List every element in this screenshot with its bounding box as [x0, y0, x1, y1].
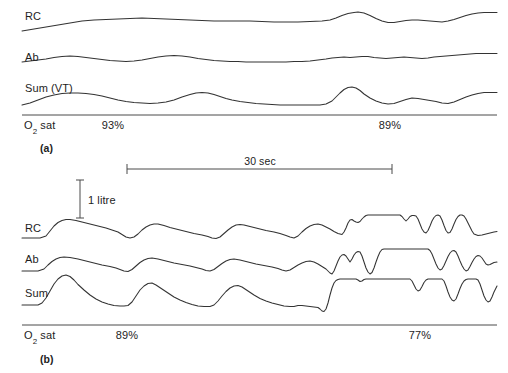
amplitude-scale-label: 1 litre [88, 194, 116, 206]
respiratory-trace-figure: RC Ab Sum (VT) O2 sat 93% 89% (a) 30 sec… [0, 0, 508, 373]
channel-label-sum-panel-b: Sum [25, 287, 48, 299]
o2-sat-axis-label-panel-a: O2 sat [24, 119, 55, 134]
o2-sat-axis-label-panel-b: O2 sat [24, 329, 55, 344]
panel-tag-b: (b) [40, 353, 54, 365]
sat-marker-77-panel-b: 77% [409, 329, 431, 341]
panel-a-traces [22, 12, 497, 105]
o2-sat-suffix-a: sat [37, 119, 55, 131]
channel-label-rc-panel-a: RC [25, 10, 41, 22]
channel-label-ab-panel-a: Ab [25, 51, 39, 63]
channel-label-sum-vt-panel-a: Sum (VT) [25, 82, 73, 94]
sat-marker-93-panel-a: 93% [102, 119, 124, 131]
channel-label-ab-panel-b: Ab [25, 253, 39, 265]
trace-ab-panel-b [22, 249, 497, 274]
sat-marker-89-panel-a: 89% [379, 119, 401, 131]
o2-sat-subscript-a: 2 [33, 127, 38, 136]
o2-sat-text-b: O [24, 329, 33, 341]
panel-tag-a: (a) [40, 142, 53, 154]
o2-sat-text-a: O [24, 119, 33, 131]
sat-marker-89-panel-b: 89% [116, 329, 138, 341]
amplitude-scale-bar [76, 180, 84, 218]
channel-label-rc-panel-b: RC [25, 222, 41, 234]
trace-sum-vt-panel-a [22, 87, 497, 105]
time-scale-label: 30 sec [244, 155, 276, 167]
figure-canvas [0, 0, 508, 373]
o2-sat-suffix-b: sat [37, 329, 55, 341]
o2-sat-subscript-b: 2 [33, 337, 38, 346]
panel-b-traces [22, 215, 497, 312]
trace-rc-panel-b [22, 215, 497, 239]
trace-sum-panel-b [22, 275, 497, 312]
trace-rc-panel-a [22, 12, 497, 31]
trace-ab-panel-a [22, 54, 497, 63]
